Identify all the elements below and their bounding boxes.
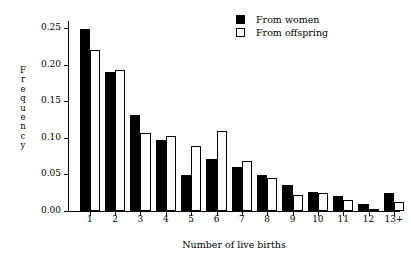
y-axis-tick-label: 0.00 [31,206,61,215]
legend-label-from-women: From women [256,13,319,26]
y-axis-label-letter: y [16,141,30,150]
bar-from-offspring [90,50,100,212]
bar-from-women [308,192,318,211]
y-axis-tick-mark [64,174,68,175]
bar-from-offspring [267,178,277,211]
x-axis-tick-label: 7 [239,214,245,225]
bar-from-offspring [242,161,252,211]
chart-legend: From women From offspring [236,13,328,39]
bar-from-women [232,167,242,211]
x-axis-tick-labels: 12345678910111213+ [68,214,400,228]
y-axis-tick-mark [64,211,68,212]
x-axis-tick-label: 12 [363,214,374,225]
x-axis-line [68,211,400,212]
y-axis-tick-label: 0.15 [31,96,61,105]
y-axis-tick-label: 0.05 [31,169,61,178]
y-axis-tick-mark [64,28,68,29]
x-axis-tick-label: 5 [188,214,194,225]
bar-from-women [282,185,292,211]
bar-from-women [333,196,343,211]
x-axis-tick-label: 9 [290,214,296,225]
y-axis-tick-mark [64,101,68,102]
legend-swatch-filled-icon [236,15,245,24]
legend-item-from-offspring: From offspring [236,26,328,39]
bar-from-women [384,193,394,211]
plot-area [68,21,400,211]
legend-item-from-women: From women [236,13,328,26]
bar-from-women [181,175,191,211]
x-axis-tick-label: 2 [112,214,118,225]
bar-from-women [105,72,115,211]
y-axis-tick-labels: 0.000.050.100.150.200.25 [29,0,61,267]
x-axis-label: Number of live births [68,239,400,250]
y-axis-tick-label: 0.10 [31,133,61,142]
y-axis-tick-mark [64,65,68,66]
x-axis-tick-label: 1 [87,214,93,225]
bar-from-offspring [115,70,125,211]
bar-from-offspring [318,193,328,211]
bar-from-women [358,204,368,211]
y-axis-tick-label: 0.25 [31,23,61,32]
y-axis-tick-label: 0.20 [31,60,61,69]
y-axis-tick-mark [64,138,68,139]
bar-from-offspring [140,133,150,211]
bar-from-offspring [369,209,379,211]
x-axis-tick-label: 11 [337,214,348,225]
x-axis-tick-label: 8 [264,214,270,225]
bar-from-offspring [191,146,201,211]
bar-from-offspring [394,202,404,211]
x-axis-tick-label: 3 [138,214,144,225]
legend-label-from-offspring: From offspring [256,26,328,39]
bar-from-offspring [343,200,353,211]
bar-from-women [130,115,140,211]
legend-swatch-open-icon [236,28,245,37]
bar-group-container [68,21,400,211]
bar-from-women [206,159,216,211]
bar-from-offspring [293,195,303,211]
x-axis-tick-label: 10 [312,214,323,225]
bar-from-women [156,140,166,211]
x-axis-tick-label: 13+ [384,214,403,225]
bar-chart-figure: Frequency 0.000.050.100.150.200.25 12345… [0,0,411,267]
bar-from-women [257,175,267,211]
bar-from-offspring [217,131,227,211]
x-axis-tick-label: 6 [214,214,220,225]
bar-from-offspring [166,136,176,211]
bar-from-women [80,29,90,211]
y-axis-label: Frequency [16,66,30,151]
x-axis-tick-label: 4 [163,214,169,225]
